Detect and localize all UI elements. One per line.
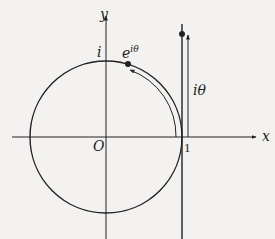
y-axis-label: y: [99, 6, 109, 22]
euler-diagram: x y iθ eiθ i O 1: [0, 0, 275, 239]
angle-arc: [130, 70, 176, 137]
one-label: 1: [184, 140, 191, 155]
exp-point-dot: [125, 61, 131, 67]
exp-point-label: eiθ: [122, 44, 139, 61]
origin-label: O: [93, 138, 105, 154]
i-theta-label: iθ: [193, 82, 206, 98]
x-axis-label: x: [262, 128, 270, 144]
i-label: i: [97, 44, 101, 60]
tangent-point-dot: [179, 31, 185, 37]
